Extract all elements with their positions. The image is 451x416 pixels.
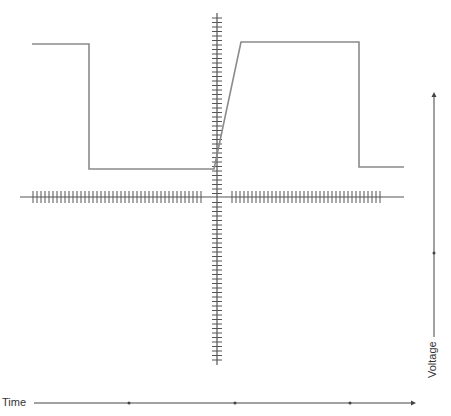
voltage-axis-arrow (432, 92, 437, 337)
voltage-axis-label: Voltage (426, 341, 438, 378)
voltage-signal-waveform (32, 42, 404, 169)
waveform-diagram (0, 0, 451, 416)
time-axis-arrow (34, 401, 416, 406)
time-axis-label: Time (2, 396, 26, 408)
crosshair-axes (20, 13, 404, 365)
